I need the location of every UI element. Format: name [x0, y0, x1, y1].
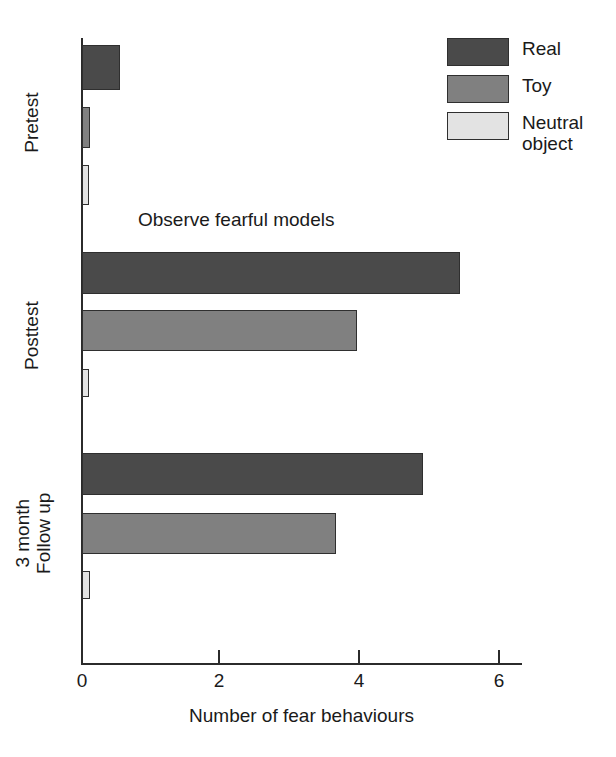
- legend-swatch-neutral-object: [447, 112, 509, 140]
- annotation-observe-fearful-models: Observe fearful models: [138, 209, 334, 231]
- legend-item-toy[interactable]: Toy: [447, 75, 612, 103]
- bar-pretest-neutral-object: [82, 165, 89, 205]
- legend: RealToyNeutral object: [447, 38, 612, 163]
- group-label-posttest: Posttest: [21, 276, 42, 396]
- x-tick-4: [358, 650, 360, 664]
- legend-label-real: Real: [522, 38, 561, 60]
- x-tick-2: [218, 650, 220, 664]
- x-tick-label-2: 2: [199, 670, 239, 692]
- legend-item-neutral-object[interactable]: Neutral object: [447, 112, 612, 154]
- bar-chart-figure: 0246 Number of fear behaviours Pretest P…: [0, 0, 616, 757]
- legend-swatch-toy: [447, 75, 509, 103]
- bar-posttest-neutral-object: [82, 369, 89, 397]
- bar-3-month-real: [82, 453, 423, 495]
- bar-3-month-toy: [82, 513, 336, 554]
- x-axis-title: Number of fear behaviours: [81, 705, 522, 727]
- legend-item-real[interactable]: Real: [447, 38, 612, 66]
- x-tick-0: [81, 650, 83, 664]
- legend-swatch-real: [447, 38, 509, 66]
- x-axis-line: [81, 663, 522, 665]
- group-label-3-month-follow-up: 3 month Follow up: [12, 458, 55, 608]
- legend-label-neutral-object: Neutral object: [522, 112, 583, 154]
- x-tick-label-4: 4: [339, 670, 379, 692]
- x-tick-6: [498, 650, 500, 664]
- bar-pretest-real: [82, 45, 120, 90]
- legend-label-toy: Toy: [522, 75, 552, 97]
- bar-pretest-toy: [82, 107, 90, 148]
- x-tick-label-6: 6: [479, 670, 519, 692]
- group-label-pretest: Pretest: [21, 63, 42, 183]
- bar-3-month-neutral-object: [82, 571, 90, 599]
- x-tick-label-0: 0: [62, 670, 102, 692]
- bar-posttest-toy: [82, 310, 357, 351]
- bar-posttest-real: [82, 252, 460, 294]
